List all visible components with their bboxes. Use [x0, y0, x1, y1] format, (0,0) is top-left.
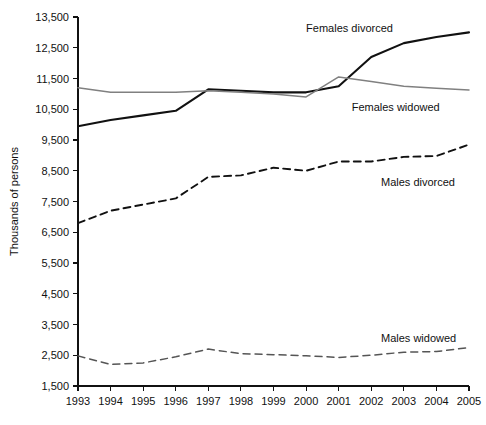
series-label-0: Females divorced: [306, 22, 393, 34]
x-tick-label: 2003: [392, 395, 416, 407]
x-tick-label: 1998: [229, 395, 253, 407]
chart-plot-area: 1,5002,5003,5004,5005,5006,5007,5008,500…: [0, 0, 486, 425]
y-tick-label: 9,500: [41, 134, 69, 146]
y-tick-label: 4,500: [41, 288, 69, 300]
x-tick-label: 1997: [196, 395, 220, 407]
x-tick-label: 1999: [261, 395, 285, 407]
x-tick-label: 2004: [424, 395, 448, 407]
x-tick-label: 2001: [326, 395, 350, 407]
y-tick-label: 12,500: [35, 42, 69, 54]
y-tick-label: 7,500: [41, 196, 69, 208]
series-label-1: Females widowed: [352, 101, 440, 113]
series-label-3: Males widowed: [381, 332, 456, 344]
series-line-3: [78, 348, 469, 365]
y-axis-title: Thousands of persons: [8, 147, 20, 256]
y-tick-label: 3,500: [41, 319, 69, 331]
x-tick-label: 1993: [66, 395, 90, 407]
x-tick-label: 2005: [457, 395, 481, 407]
y-tick-label: 8,500: [41, 165, 69, 177]
line-chart: 1,5002,5003,5004,5005,5006,5007,5008,500…: [0, 0, 486, 425]
y-tick-label: 10,500: [35, 103, 69, 115]
y-tick-label: 5,500: [41, 257, 69, 269]
series-line-1: [78, 77, 469, 97]
x-tick-label: 2002: [359, 395, 383, 407]
x-tick-label: 1994: [98, 395, 122, 407]
y-tick-label: 1,500: [41, 380, 69, 392]
chart-axes: [78, 17, 469, 386]
x-tick-label: 1995: [131, 395, 155, 407]
series-label-2: Males divorced: [381, 176, 455, 188]
y-tick-label: 13,500: [35, 11, 69, 23]
y-tick-label: 6,500: [41, 226, 69, 238]
y-tick-label: 11,500: [36, 73, 69, 85]
x-tick-label: 1996: [164, 395, 188, 407]
y-tick-label: 2,500: [41, 349, 69, 361]
x-tick-label: 2000: [294, 395, 318, 407]
